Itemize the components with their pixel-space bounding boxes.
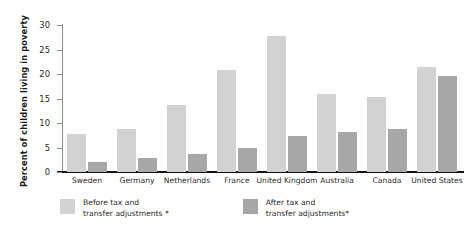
- x-axis-label-sweden: Sweden: [72, 176, 102, 185]
- x-axis-label-united-kingdom: United Kingdom: [257, 176, 318, 185]
- plot-area: [62, 25, 462, 172]
- bar-after-netherlands: [188, 154, 207, 172]
- bar-before-united-states: [417, 67, 436, 172]
- y-axis-tick-label: 10: [8, 118, 50, 128]
- y-axis-tick-label: 5: [8, 143, 50, 153]
- bar-before-australia: [317, 94, 336, 172]
- x-axis-label-germany: Germany: [120, 176, 155, 185]
- bar-after-united-kingdom: [288, 136, 307, 172]
- x-axis-label-netherlands: Netherlands: [164, 176, 210, 185]
- legend-label: After tax and transfer adjustments*: [266, 198, 349, 219]
- x-axis-label-france: France: [224, 176, 249, 185]
- y-axis-tick-label: 30: [8, 20, 50, 30]
- chart-legend: Before tax and transfer adjustments *Aft…: [60, 198, 349, 219]
- legend-swatch-before-tax: [60, 199, 75, 214]
- x-axis-label-canada: Canada: [373, 176, 402, 185]
- bar-before-canada: [367, 97, 386, 172]
- bar-after-united-states: [438, 76, 457, 172]
- bar-after-france: [238, 148, 257, 172]
- legend-swatch-after-tax: [243, 199, 258, 214]
- bar-before-sweden: [67, 134, 86, 172]
- bar-after-canada: [388, 129, 407, 172]
- y-axis-tick-label: 15: [8, 94, 50, 104]
- legend-item-after-tax: After tax and transfer adjustments*: [243, 198, 349, 219]
- bar-before-france: [217, 70, 236, 172]
- bar-before-netherlands: [167, 105, 186, 172]
- x-axis-label-australia: Australia: [320, 176, 354, 185]
- y-axis-tick: [57, 172, 62, 173]
- bar-after-germany: [138, 158, 157, 172]
- y-axis-tick-label: 20: [8, 69, 50, 79]
- legend-item-before-tax: Before tax and transfer adjustments *: [60, 198, 169, 219]
- bar-after-australia: [338, 132, 357, 172]
- bar-before-germany: [117, 129, 136, 172]
- bar-chart: Percent of children living in poverty 05…: [0, 0, 470, 243]
- y-axis-tick-label: 25: [8, 45, 50, 55]
- bar-before-united-kingdom: [267, 36, 286, 172]
- legend-label: Before tax and transfer adjustments *: [83, 198, 169, 219]
- bar-after-sweden: [88, 162, 107, 172]
- x-axis-label-united-states: United States: [411, 176, 462, 185]
- y-axis-tick-label: 0: [8, 167, 50, 177]
